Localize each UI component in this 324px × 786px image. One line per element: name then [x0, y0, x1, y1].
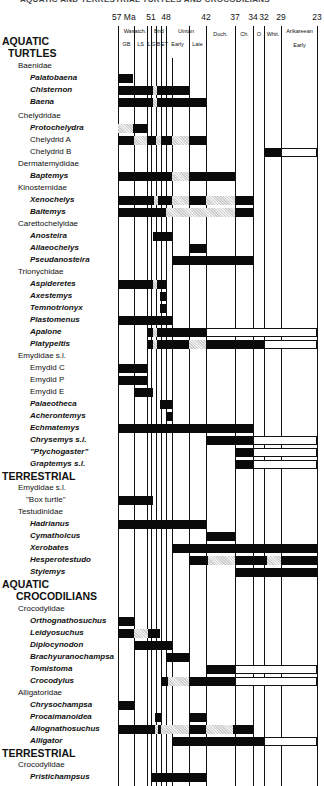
age-tick: 51: [146, 12, 155, 22]
range-bar: [118, 98, 153, 107]
range-bar: [118, 496, 153, 505]
taxon-label: Allognathosuchus: [30, 724, 100, 734]
family-label: Emydidae s.l.: [18, 351, 66, 361]
age-tick: 37: [230, 12, 239, 22]
substage-label: GB: [119, 41, 134, 47]
range-bar: [118, 424, 253, 433]
taxon-label: Emydid C: [30, 363, 65, 373]
range-bar: [189, 244, 206, 253]
range-bar: [153, 232, 172, 241]
range-bar: [160, 400, 172, 409]
taxon-label: Chelydrid A: [30, 135, 71, 145]
range-bar: [118, 124, 133, 133]
range-bar: [161, 677, 168, 686]
range-bar: [148, 629, 160, 638]
taxon-label: Crocodylus: [30, 676, 74, 686]
family-label: Baenidae: [18, 61, 52, 71]
range-bar: [189, 725, 206, 734]
range-bar: [160, 292, 166, 301]
range-bar: [267, 556, 281, 565]
range-bar: [233, 725, 253, 734]
taxon-label: Palatobaena: [30, 73, 77, 83]
family-label: Crocodylidae: [18, 604, 65, 614]
range-bar: [206, 340, 264, 349]
range-bar: [189, 713, 206, 722]
range-bar: [155, 713, 161, 722]
taxon-label: Chelydrid B: [30, 147, 71, 157]
taxon-label: Emydid E: [30, 387, 64, 397]
stage-label: O: [254, 31, 264, 37]
range-bar: [166, 653, 189, 662]
family-label: Trionychidae: [18, 267, 64, 277]
range-bar: [134, 388, 153, 397]
range-bar: [206, 196, 235, 205]
stage-label: Whit.: [265, 31, 281, 37]
range-bar: [134, 641, 172, 650]
age-tick: 29: [276, 12, 285, 22]
taxon-label: Hadrianus: [30, 519, 69, 529]
taxon-label: Chrysemys s.l.: [30, 435, 86, 445]
group-label: TERRESTRIAL: [2, 471, 76, 481]
range-bar: [118, 520, 206, 529]
taxon-label: Plastomenus: [30, 315, 80, 325]
substage-label: Late: [189, 41, 206, 47]
range-bar: [189, 196, 206, 205]
taxon-label: Echmatemys: [30, 423, 79, 433]
taxon-label: Xenochelys: [30, 195, 74, 205]
range-bar: [118, 172, 172, 181]
range-bar: [235, 568, 317, 577]
age-tick: 57 Ma: [112, 12, 136, 22]
range-bar: [235, 460, 253, 469]
range-bar: [118, 701, 134, 710]
range-bar: [281, 556, 317, 565]
taxon-label: Baena: [30, 97, 54, 107]
range-bar: [133, 124, 147, 133]
taxon-label: Emydid P: [30, 375, 64, 385]
range-bar: [118, 725, 155, 734]
range-bar: [157, 328, 206, 337]
taxon-label: Baltemys: [30, 207, 66, 217]
taxon-label: "Box turtle": [26, 495, 65, 505]
range-bar: [168, 677, 189, 686]
family-label: Carettochelyidae: [18, 219, 78, 229]
substage-label: Early: [166, 41, 189, 47]
range-bar: [235, 665, 317, 674]
range-bar: [281, 148, 317, 157]
range-bar: [166, 725, 189, 734]
age-tick: 23: [312, 12, 321, 22]
range-bar: [235, 196, 253, 205]
range-bar: [147, 136, 156, 145]
group-label: AQUATIC: [2, 36, 49, 46]
range-bar: [172, 737, 264, 746]
group-label: AQUATIC: [2, 579, 49, 589]
taxon-label: Procaimanoidea: [30, 712, 92, 722]
age-tick: 42: [201, 12, 210, 22]
range-bar: [206, 436, 253, 445]
taxon-label: Graptemys s.l.: [30, 459, 85, 469]
range-bar: [172, 172, 189, 181]
range-bar: [206, 532, 235, 541]
family-label: Emydidae s.l.: [18, 483, 66, 493]
range-bar: [208, 556, 235, 565]
group-label: TURTLES: [8, 48, 56, 58]
stage-label: Arikareean: [282, 28, 317, 34]
taxon-label: Apalone: [30, 327, 62, 337]
range-bar: [166, 208, 235, 217]
range-bar: [118, 316, 172, 325]
range-bar: [235, 677, 317, 686]
taxon-label: Temnotrionyx: [30, 303, 83, 313]
family-label: Testudinidae: [18, 507, 63, 517]
taxon-label: Pseudanosteira: [30, 255, 90, 265]
range-bar: [157, 340, 189, 349]
range-bar: [253, 460, 317, 469]
family-label: Dermatemydidae: [18, 159, 79, 169]
range-bar: [172, 196, 189, 205]
taxon-label: Platypeltis: [30, 339, 70, 349]
range-bar: [235, 208, 253, 217]
range-bar: [235, 556, 267, 565]
chart-title: AQUATIC AND TERRESTRIAL TURTLES AND CROC…: [20, 0, 270, 4]
group-label: CROCODILIANS: [16, 591, 97, 601]
taxon-label: Stylemys: [30, 567, 65, 577]
range-bar: [118, 376, 147, 385]
stage-label: Wasatch.: [120, 28, 150, 34]
